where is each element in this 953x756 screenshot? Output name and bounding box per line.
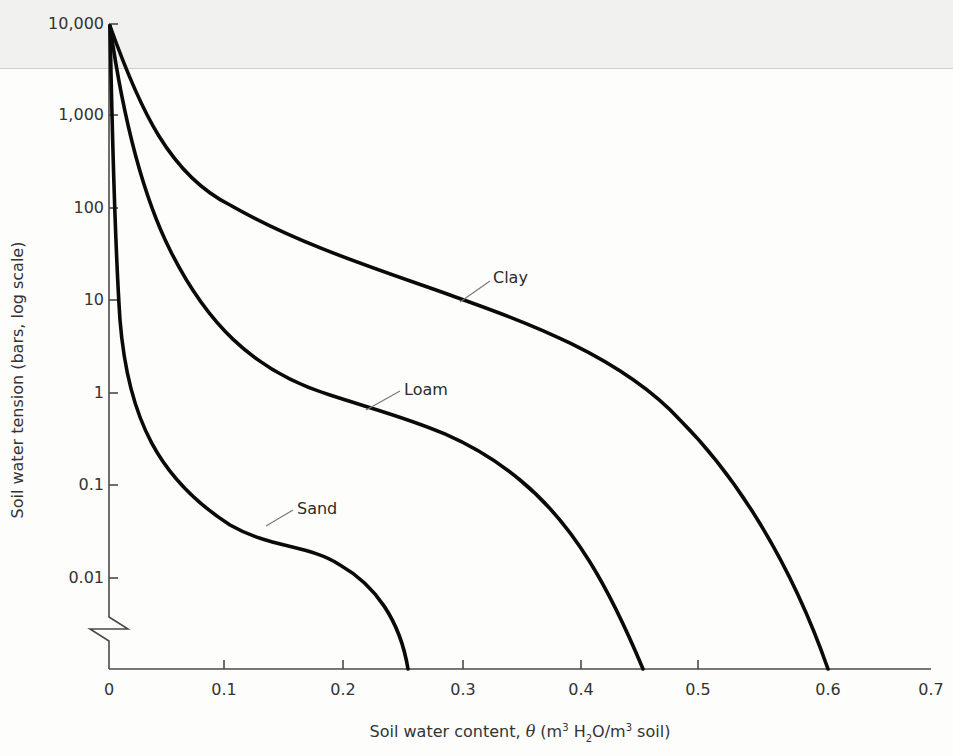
x-tick-label: 0.5 [673,680,723,699]
x-tick-label: 0.6 [803,680,853,699]
x-axis-title: Soil water content, θ (m3 H2O/m3 soil) [120,722,920,744]
y-tick-label: 1 [14,383,104,402]
chart-plot-area [0,0,953,756]
x-tick-label: 0.7 [906,680,953,699]
clay-label: Clay [493,268,528,287]
x-tick-label: 0.2 [318,680,368,699]
loam-leader-line [366,391,400,410]
clay-curve [110,26,828,669]
sand-curve [110,26,408,669]
y-tick-label: 1,000 [14,105,104,124]
x-tick-label: 0.4 [556,680,606,699]
x-axis [109,660,931,669]
loam-curve [110,26,643,669]
y-tick-label: 0.1 [14,475,104,494]
y-axis-title: Soil water tension (bars, log scale) [8,160,27,600]
x-tick-label: 0.1 [199,680,249,699]
y-tick-label: 0.01 [14,568,104,587]
loam-label: Loam [404,380,448,399]
y-tick-label: 10,000 [14,14,104,33]
x-tick-label: 0.3 [438,680,488,699]
y-tick-label: 10 [14,290,104,309]
clay-leader-line [460,281,490,302]
sand-leader-line [266,510,293,526]
x-tick-label: 0 [84,680,134,699]
y-tick-label: 100 [14,198,104,217]
sand-label: Sand [297,499,337,518]
